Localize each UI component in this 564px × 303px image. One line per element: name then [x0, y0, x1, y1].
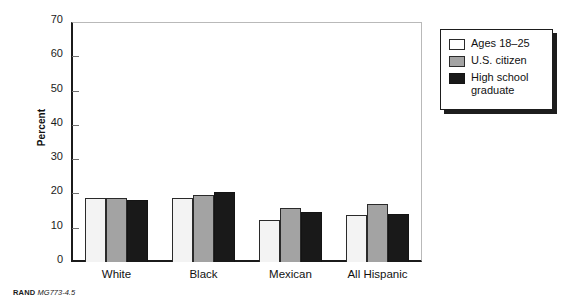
y-tick-label: 10: [51, 220, 63, 231]
figure-footer: RAND MG773-4.5: [13, 288, 75, 297]
bar: [346, 215, 367, 262]
bar: [127, 200, 148, 262]
legend-swatch: [449, 56, 465, 67]
y-axis-title: Percent: [36, 98, 47, 158]
x-axis-label: Mexican: [247, 268, 334, 280]
legend-item: High school graduate: [449, 71, 546, 97]
x-axis-label: White: [73, 268, 160, 280]
bar: [106, 198, 127, 262]
y-tick-label: 30: [51, 151, 63, 162]
legend-item: U.S. citizen: [449, 54, 546, 67]
legend-label: U.S. citizen: [471, 54, 527, 67]
y-tick-label: 60: [51, 48, 63, 59]
bar: [85, 198, 106, 262]
legend-swatch: [449, 39, 465, 50]
legend-label: Ages 18–25: [471, 37, 530, 50]
bar-group: [247, 22, 334, 262]
footer-source-label: RAND: [13, 288, 35, 297]
bar: [214, 192, 235, 262]
legend-item: Ages 18–25: [449, 37, 546, 50]
y-tick-label: 40: [51, 117, 63, 128]
y-tick-label: 70: [51, 14, 63, 25]
chart-legend: Ages 18–25U.S. citizenHigh school gradua…: [440, 29, 553, 110]
bar: [172, 198, 193, 262]
bar: [259, 220, 280, 262]
legend-swatch: [449, 73, 465, 84]
bar-group: [73, 22, 160, 262]
bar-series-container: [73, 22, 421, 262]
footer-figure-number: MG773-4.5: [38, 288, 76, 297]
y-tick-label: 50: [51, 83, 63, 94]
chart-figure: Percent 010203040506070 WhiteBlackMexica…: [0, 0, 564, 303]
bar: [388, 214, 409, 262]
y-tick-label: 0: [57, 254, 63, 265]
bar: [280, 208, 301, 262]
legend-label: High school graduate: [471, 71, 546, 97]
bar-group: [160, 22, 247, 262]
bar: [301, 212, 322, 262]
x-axis-label: All Hispanic: [334, 268, 421, 280]
bar-group: [334, 22, 421, 262]
bar: [193, 195, 214, 262]
y-tick-label: 20: [51, 185, 63, 196]
bar: [367, 204, 388, 262]
x-axis-label: Black: [160, 268, 247, 280]
